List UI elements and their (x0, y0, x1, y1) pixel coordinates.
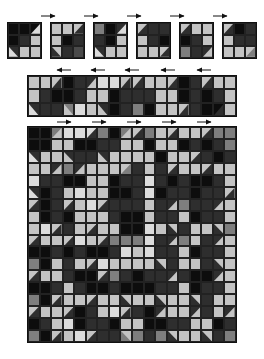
quilt-cell (51, 306, 63, 318)
half-square-triangle-icon (75, 164, 85, 174)
quilt-cell (213, 223, 225, 235)
half-square-triangle-icon (31, 24, 40, 34)
quilt-cell (28, 318, 40, 330)
arrow-right-icon (83, 13, 99, 19)
arrow-left-icon (196, 67, 212, 73)
half-square-triangle-icon (224, 24, 233, 34)
quilt-cell (201, 258, 213, 270)
quilt-cell (224, 151, 236, 163)
quilt-cell (144, 163, 156, 175)
quilt-cell (201, 139, 213, 151)
quilt-block-6 (222, 22, 257, 59)
quilt-cell (97, 151, 109, 163)
quilt-cell (213, 246, 225, 258)
quilt-cell (144, 294, 156, 306)
half-square-triangle-icon (156, 259, 166, 269)
quilt-cell (190, 211, 202, 223)
quilt-cell (86, 199, 98, 211)
step3-quilt-grid (27, 126, 237, 343)
quilt-cell (213, 199, 225, 211)
quilt-cell (97, 187, 109, 199)
quilt-cell (51, 127, 63, 139)
quilt-cell (8, 23, 19, 35)
quilt-cell (109, 246, 121, 258)
quilt-cell (28, 270, 40, 282)
quilt-cell (155, 76, 167, 89)
quilt-cell (74, 127, 86, 139)
quilt-cell (74, 76, 86, 89)
quilt-cell (132, 89, 144, 102)
half-square-triangle-icon (29, 307, 39, 317)
quilt-cell (144, 89, 156, 102)
half-square-triangle-icon (191, 307, 201, 317)
quilt-cell (62, 23, 73, 35)
quilt-cell (109, 163, 121, 175)
arrow-left-icon (160, 67, 176, 73)
quilt-cell (63, 211, 75, 223)
step2-strip (27, 75, 237, 117)
quilt-cell (167, 330, 179, 342)
quilt-cell (167, 175, 179, 187)
quilt-cell (109, 127, 121, 139)
quilt-cell (116, 35, 127, 47)
quilt-cell (178, 294, 190, 306)
quilt-cell (51, 294, 63, 306)
arrow-right-icon (126, 119, 142, 125)
quilt-cell (97, 235, 109, 247)
quilt-cell (97, 175, 109, 187)
half-square-triangle-icon (156, 307, 166, 317)
quilt-cell (213, 258, 225, 270)
quilt-cell (155, 199, 167, 211)
quilt-cell (74, 211, 86, 223)
half-square-triangle-icon (214, 271, 224, 281)
quilt-cell (224, 175, 236, 187)
quilt-cell (86, 258, 98, 270)
quilt-cell (51, 270, 63, 282)
half-square-triangle-icon (98, 200, 108, 210)
quilt-cell (201, 127, 213, 139)
quilt-cell (51, 76, 63, 89)
quilt-cell (167, 318, 179, 330)
quilt-cell (213, 318, 225, 330)
quilt-cell (167, 127, 179, 139)
quilt-cell (201, 318, 213, 330)
quilt-cell (28, 211, 40, 223)
quilt-cell (8, 46, 19, 58)
half-square-triangle-icon (133, 128, 143, 138)
quilt-cell (224, 318, 236, 330)
quilt-cell (28, 103, 40, 116)
quilt-cell (40, 270, 52, 282)
quilt-cell (97, 258, 109, 270)
quilt-cell (120, 89, 132, 102)
quilt-cell (190, 103, 202, 116)
quilt-cell (201, 235, 213, 247)
quilt-cell (86, 175, 98, 187)
quilt-cell (132, 187, 144, 199)
half-square-triangle-icon (181, 24, 190, 34)
quilt-cell (28, 89, 40, 102)
half-square-triangle-icon (121, 77, 131, 88)
quilt-cell (51, 282, 63, 294)
half-square-triangle-icon (64, 104, 74, 115)
quilt-cell (155, 223, 167, 235)
half-square-triangle-icon (179, 104, 189, 115)
half-square-triangle-icon (117, 24, 126, 34)
quilt-cell (63, 199, 75, 211)
quilt-cell (73, 35, 84, 47)
quilt-cell (144, 270, 156, 282)
quilt-cell (28, 258, 40, 270)
quilt-cell (201, 103, 213, 116)
quilt-cell (155, 258, 167, 270)
quilt-cell (178, 127, 190, 139)
arrow-right-icon (161, 119, 177, 125)
half-square-triangle-icon (87, 331, 97, 341)
quilt-cell (167, 294, 179, 306)
half-square-triangle-icon (29, 271, 39, 281)
quilt-cell (86, 330, 98, 342)
quilt-block-4 (136, 22, 171, 59)
quilt-cell (63, 270, 75, 282)
quilt-cell (109, 89, 121, 102)
quilt-cell (109, 76, 121, 89)
quilt-cell (190, 246, 202, 258)
quilt-cell (120, 127, 132, 139)
